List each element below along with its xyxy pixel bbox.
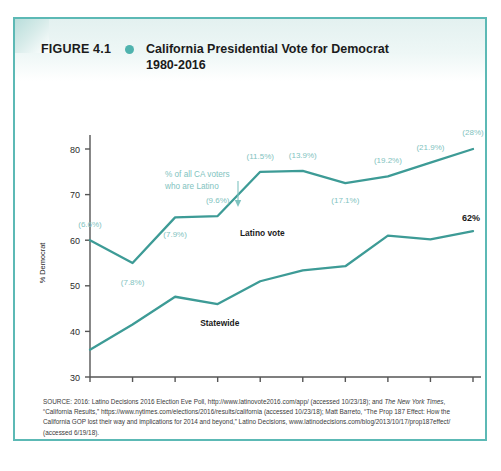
latino-point-annotation: (17.1%): [331, 196, 359, 205]
callout-line2: who are Latino: [164, 182, 219, 191]
latino-point-annotation: (9.6%): [206, 196, 230, 205]
figure-number: FIGURE 4.1: [41, 41, 111, 57]
figure-frame: FIGURE 4.1 California Presidential Vote …: [13, 17, 487, 441]
down-arrow-head-icon: [235, 200, 241, 207]
source-label: SOURCE:: [43, 398, 72, 405]
line-chart: 304050607080% Democrat198019841988199219…: [15, 83, 489, 383]
latino-point-annotation: (21.9%): [416, 143, 444, 152]
latino-point-annotation: (6.6%): [78, 220, 102, 229]
series-line-latino-vote: [90, 149, 473, 263]
series-label-statewide: Statewide: [200, 318, 239, 328]
callout-line1: % of all CA voters: [165, 170, 230, 179]
latino-point-annotation: (7.8%): [121, 278, 145, 287]
y-axis-tick-label: 40: [70, 327, 80, 337]
latino-point-annotation: (28%): [462, 128, 484, 137]
source-note: SOURCE: 2016: Latino Decisions 2016 Elec…: [43, 397, 473, 438]
source-text-1: 2016: Latino Decisions 2016 Election Eve…: [72, 398, 384, 405]
figure-title-line1: California Presidential Vote for Democra…: [146, 42, 389, 56]
latino-point-annotation: (11.5%): [247, 152, 275, 161]
y-axis-tick-label: 30: [70, 373, 80, 383]
y-axis-title: % Democrat: [38, 243, 47, 284]
y-axis-tick-label: 60: [70, 236, 80, 246]
page-title: California Presidential Vote for Democra…: [146, 41, 389, 73]
series-line-statewide: [90, 231, 473, 350]
y-axis-tick-label: 70: [70, 190, 80, 200]
y-axis-tick-label: 50: [70, 281, 80, 291]
latino-point-annotation: (13.9%): [289, 151, 317, 160]
source-italic-1: The New York Times: [384, 398, 443, 405]
series-label-latino-vote: Latino vote: [240, 228, 285, 238]
figure-title-line2: 1980-2016: [146, 57, 389, 73]
figure-title-row: FIGURE 4.1 California Presidential Vote …: [41, 41, 465, 73]
statewide-end-label: 62%: [462, 213, 480, 223]
bullet-dot-icon: [125, 45, 134, 54]
latino-point-annotation: (7.9%): [163, 230, 187, 239]
y-axis-tick-label: 80: [70, 145, 80, 155]
latino-point-annotation: (19.2%): [374, 156, 402, 165]
chart-plot-area: 304050607080% Democrat198019841988199219…: [15, 83, 489, 383]
